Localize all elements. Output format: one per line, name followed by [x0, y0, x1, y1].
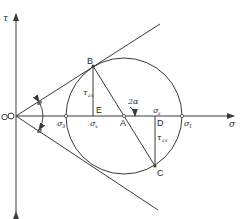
point-sigma1: [180, 114, 183, 117]
origin-label: O: [1, 112, 8, 122]
point-sigma3: [64, 114, 67, 117]
sigmax-label: σ x: [90, 119, 98, 129]
tau-axis-label: τ: [3, 13, 9, 23]
sigma1-label: σ 1: [184, 119, 192, 129]
svg-text:1: 1: [189, 123, 192, 129]
svg-text:zx: zx: [161, 137, 168, 143]
two-alpha-label: 2α: [127, 97, 139, 106]
svg-text:x: x: [95, 123, 98, 129]
sigma-axis-label: σ: [229, 119, 236, 129]
tau-zx-bottom-label: τ zx: [157, 133, 168, 143]
two-alpha-arc-icon: [130, 107, 135, 116]
sigma3-label: σ 3: [57, 119, 65, 129]
tau-zx-top-label: τ zx: [83, 88, 94, 98]
svg-text:3: 3: [62, 123, 65, 129]
phi-lower-label: ø: [36, 126, 42, 135]
point-b-label: B: [87, 56, 93, 66]
mohr-circle-diagram: τ σ O B C A D E ø ø 2α σ 3 σ x σ z σ 1 τ…: [0, 0, 244, 219]
point-d-label: D: [157, 118, 164, 128]
point-a-label: A: [120, 118, 126, 128]
phi-upper-label: ø: [36, 98, 42, 107]
svg-text:zx: zx: [87, 92, 94, 98]
sigmaz-label: σ z: [153, 106, 161, 116]
point-origin: [8, 113, 14, 119]
point-c-label: C: [157, 168, 164, 178]
point-e-label: E: [96, 105, 102, 115]
svg-text:z: z: [157, 110, 161, 116]
